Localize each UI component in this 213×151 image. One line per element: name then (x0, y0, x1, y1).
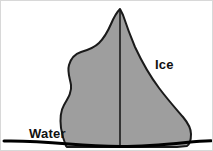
iceberg-diagram: Ice Water (0, 0, 213, 151)
ice-label: Ice (155, 58, 174, 71)
iceberg-shape (60, 9, 191, 147)
water-label: Water (29, 127, 66, 140)
